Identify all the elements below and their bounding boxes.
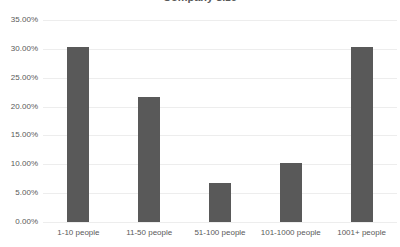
bar[interactable] bbox=[209, 183, 231, 222]
y-axis-tick-label: 5.00% bbox=[0, 189, 38, 197]
x-axis-tick-label: 101-1000 people bbox=[255, 228, 326, 237]
x-axis-labels-group: 1-10 people11-50 people51-100 people101-… bbox=[43, 222, 397, 247]
bar[interactable] bbox=[280, 163, 302, 222]
bar-slot bbox=[255, 20, 326, 222]
bar-slot bbox=[43, 20, 114, 222]
x-axis-tick-label: 11-50 people bbox=[114, 228, 185, 237]
bar[interactable] bbox=[67, 47, 89, 222]
bar-slot bbox=[185, 20, 256, 222]
y-axis-tick-label: 20.00% bbox=[0, 103, 38, 111]
y-axis-tick-label: 10.00% bbox=[0, 160, 38, 168]
chart-title-fragment: Company size bbox=[0, 0, 400, 5]
x-axis-tick-label: 51-100 people bbox=[185, 228, 256, 237]
bar-slot bbox=[326, 20, 397, 222]
x-axis-tick-label: 1-10 people bbox=[43, 228, 114, 237]
bar-slot bbox=[114, 20, 185, 222]
y-axis-tick-label: 0.00% bbox=[0, 218, 38, 226]
x-axis-tick-label: 1001+ people bbox=[326, 228, 397, 237]
bar-chart: Company size 0.00%5.00%10.00%15.00%20.00… bbox=[0, 0, 400, 247]
bar[interactable] bbox=[351, 47, 373, 222]
y-axis-tick-label: 15.00% bbox=[0, 131, 38, 139]
y-axis-tick-label: 30.00% bbox=[0, 45, 38, 53]
bar[interactable] bbox=[138, 97, 160, 222]
bars-group bbox=[43, 20, 397, 222]
y-axis-tick-label: 35.00% bbox=[0, 16, 38, 24]
y-axis-tick-label: 25.00% bbox=[0, 74, 38, 82]
